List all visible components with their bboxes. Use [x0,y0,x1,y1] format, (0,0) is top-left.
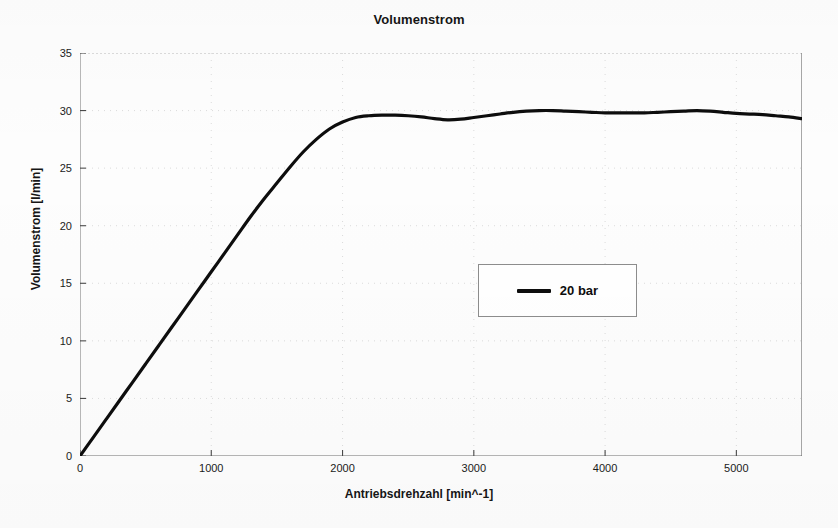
y-axis-tick-labels: 05101520253035 [42,53,72,456]
y-tick-label: 15 [46,277,72,289]
x-tick-label: 3000 [444,462,504,474]
chart-title: Volumenstrom [0,12,838,27]
plot-border [80,53,802,456]
y-tick-label: 20 [46,220,72,232]
x-tick-label: 2000 [313,462,373,474]
chart-page: Volumenstrom Volumenstrom [l/min] 051015… [0,0,838,528]
chart-plot-svg [80,53,802,456]
x-tick-label: 5000 [706,462,766,474]
x-axis-title: Antriebsdrehzahl [min^-1] [0,487,838,501]
chart-legend[interactable]: 20 bar [478,264,637,317]
legend-entry-label: 20 bar [560,283,598,298]
x-tick-label: 1000 [181,462,241,474]
y-axis-title: Volumenstrom [l/min] [29,109,43,349]
legend-line-swatch-icon [517,289,551,293]
x-tick-label: 4000 [575,462,635,474]
x-tick-label: 0 [50,462,110,474]
y-tick-label: 30 [46,105,72,117]
y-tick-label: 0 [46,450,72,462]
y-tick-label: 10 [46,335,72,347]
grid-lines [80,53,802,456]
y-tick-label: 5 [46,392,72,404]
x-axis-tick-labels: 010002000300040005000 [80,462,802,480]
y-tick-label: 25 [46,162,72,174]
plot-area: 20 bar [80,53,802,456]
y-tick-label: 35 [46,47,72,59]
